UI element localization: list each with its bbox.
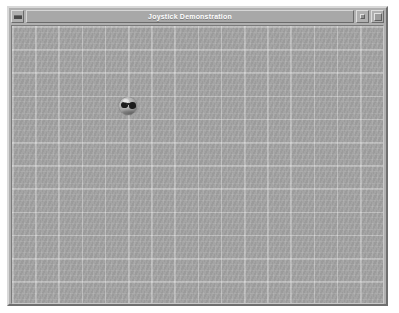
- maximize-button[interactable]: [371, 10, 384, 23]
- page-title: Joystick Demonstration: [148, 13, 232, 20]
- minimize-button[interactable]: [356, 10, 369, 23]
- window-menu-button[interactable]: [11, 10, 24, 23]
- ball-specular-highlight: [123, 99, 129, 103]
- desktop-root: Joystick Demonstration: [0, 0, 399, 313]
- maximize-icon: [374, 13, 382, 21]
- canvas-grid-background: [12, 26, 383, 303]
- window-menu-dash-icon: [14, 15, 22, 19]
- ball-drop-shadow: [122, 110, 134, 115]
- joystick-canvas[interactable]: [11, 25, 384, 304]
- window-titlebar[interactable]: Joystick Demonstration: [11, 10, 384, 23]
- ball-marking-bridge-icon: [126, 103, 130, 105]
- joystick-demonstration-window: Joystick Demonstration: [7, 6, 388, 306]
- joystick-ball-cursor[interactable]: [119, 97, 137, 115]
- window-title-area: Joystick Demonstration: [26, 10, 354, 23]
- minimize-icon: [360, 14, 365, 19]
